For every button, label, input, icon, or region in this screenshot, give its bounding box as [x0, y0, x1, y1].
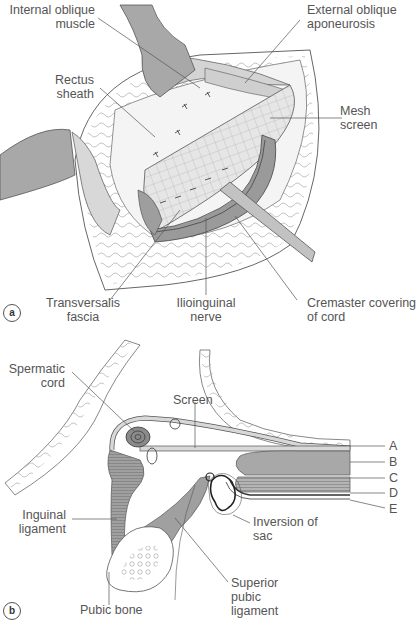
label-rectus-sheath: Rectus sheath — [40, 73, 94, 101]
label-line: aponeurosis — [307, 17, 397, 31]
label-line: ligament — [231, 604, 278, 618]
label-line: muscle — [2, 17, 95, 31]
label-line: nerve — [170, 310, 242, 324]
label-pubic-bone: Pubic bone — [80, 603, 143, 617]
label-line: Spermatic — [5, 362, 65, 376]
label-inguinal-ligament: Inguinal ligament — [10, 508, 66, 536]
label-line: Inversion of — [253, 515, 318, 529]
label-line: External oblique — [307, 3, 397, 17]
label-line: Transversalis — [38, 296, 128, 310]
label-line: Superior — [231, 576, 278, 590]
label-line: sac — [253, 529, 318, 543]
layer-key-d: D — [389, 486, 398, 500]
label-line: Cremaster covering — [307, 296, 416, 310]
layer-key-a: A — [389, 439, 397, 453]
label-external-oblique-aponeurosis: External oblique aponeurosis — [307, 3, 397, 31]
label-screen: Screen — [173, 393, 213, 407]
label-spermatic-cord: Spermatic cord — [5, 362, 65, 390]
label-inversion-of-sac: Inversion of sac — [253, 515, 318, 543]
label-line: sheath — [40, 87, 94, 101]
label-line: screen — [340, 118, 378, 132]
label-line: of cord — [307, 310, 416, 324]
panel-b-badge: b — [3, 602, 21, 620]
label-line: Mesh — [340, 104, 378, 118]
panel-a-artwork — [0, 5, 319, 290]
panel-a-badge: a — [3, 304, 21, 322]
label-line: ligament — [10, 522, 66, 536]
layer-key-e: E — [389, 502, 397, 516]
layer-key-b: B — [389, 455, 397, 469]
label-line: cord — [5, 376, 65, 390]
label-ilioinguinal-nerve: Ilioinguinal nerve — [170, 296, 242, 324]
label-line: Internal oblique — [2, 3, 95, 17]
label-superior-pubic-ligament: Superior pubic ligament — [231, 576, 278, 618]
label-line: Inguinal — [10, 508, 66, 522]
label-mesh-screen: Mesh screen — [340, 104, 378, 132]
label-line: Ilioinguinal — [170, 296, 242, 310]
label-internal-oblique-muscle: Internal oblique muscle — [2, 3, 95, 31]
label-line: pubic — [231, 590, 278, 604]
label-line: fascia — [38, 310, 128, 324]
label-transversalis-fascia: Transversalis fascia — [38, 296, 128, 324]
label-line: Rectus — [40, 73, 94, 87]
layer-key-c: C — [389, 471, 398, 485]
label-cremaster-covering-of-cord: Cremaster covering of cord — [307, 296, 416, 324]
